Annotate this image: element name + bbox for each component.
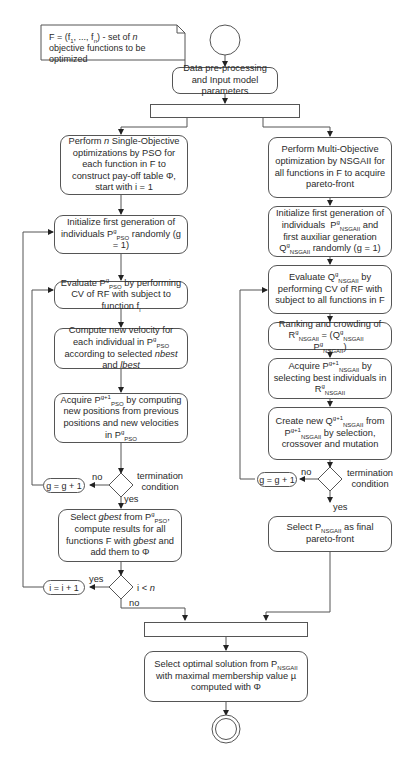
join-bar bbox=[144, 622, 308, 637]
nsga-create-node: Create new Qg+1NSGAII from Pg+1NSGAII by… bbox=[268, 407, 392, 460]
nsga-final-node: Select PNSGAII as final pareto-front bbox=[268, 516, 392, 552]
loop-yes-label: yes bbox=[89, 574, 103, 585]
pso-increment-i: i = i + 1 bbox=[43, 580, 85, 595]
objective-functions-note: F = (f1, ..., fn) - set of n objective f… bbox=[43, 27, 179, 59]
pso-acquire-node: Acquire Pg+1PSO by computing new positio… bbox=[54, 393, 188, 443]
fork-bar bbox=[150, 104, 300, 118]
nsga-increment-g: g = g + 1 bbox=[257, 472, 297, 487]
pso-evaluate-node: Evaluate PgPSO by performing CV of RF wi… bbox=[54, 281, 188, 309]
end-node-outer bbox=[212, 715, 240, 743]
pso-increment-g: g = g + 1 bbox=[43, 478, 85, 493]
nsga-termination-label: termination condition bbox=[347, 468, 393, 490]
preprocess-node: Data pre-processing and Input model para… bbox=[172, 67, 278, 94]
nsga-acquire-node: Acquire Pg+1NSGAII by selecting best ind… bbox=[268, 358, 392, 399]
nsga-init-node: Initialize first generation of individua… bbox=[268, 206, 392, 257]
loop-condition-label: i < n bbox=[137, 583, 155, 594]
nsga-ranking-node: Ranking and crowding of RgNSGAII = (QgNS… bbox=[268, 322, 392, 350]
loop-no-label: no bbox=[129, 598, 139, 609]
pso-yes-label: yes bbox=[124, 494, 138, 505]
nsga-yes-label: yes bbox=[333, 502, 347, 513]
pso-no-label: no bbox=[92, 472, 102, 483]
final-selection-node: Select optimal solution from PNSGAII wit… bbox=[144, 651, 308, 702]
pso-velocity-node: Compute new velocity for each individual… bbox=[54, 328, 188, 369]
pso-init-gen-node: Initialize first generation of individua… bbox=[54, 215, 188, 254]
start-node bbox=[210, 25, 240, 55]
pso-termination-label: termination condition bbox=[137, 471, 183, 493]
nsga-evaluate-node: Evaluate QgNSGAII by performing CV of RF… bbox=[268, 265, 392, 314]
pso-init-loop-node: Perform n Single-Objective optimizations… bbox=[60, 135, 188, 195]
nsga-no-label: no bbox=[301, 467, 311, 478]
nsga-perform-node: Perform Multi-Objective optimization by … bbox=[268, 137, 392, 198]
pso-gbest-node: Select gbest from PgPSO, compute results… bbox=[58, 509, 182, 562]
